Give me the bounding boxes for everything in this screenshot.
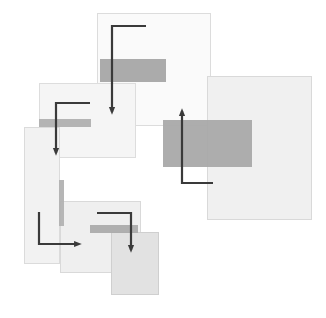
band-top	[100, 59, 166, 82]
composition-canvas: Abstract composition of overlapping tran…	[0, 0, 326, 318]
band-vertical-left	[59, 180, 64, 226]
abstract-rectangles-svg: Abstract composition of overlapping tran…	[0, 0, 326, 318]
rect-lower-left	[24, 127, 59, 263]
rect-bottom-dark	[111, 232, 158, 294]
band-mid-left	[39, 119, 91, 127]
band-right-large	[163, 120, 252, 167]
